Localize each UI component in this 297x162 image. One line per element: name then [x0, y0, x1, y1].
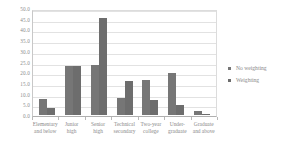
- bar: [202, 114, 210, 115]
- legend-label: No weighting: [236, 65, 267, 71]
- bar-group: [163, 11, 189, 115]
- bar: [176, 105, 184, 115]
- bar: [47, 108, 55, 115]
- y-axis-tick-label: 15.0: [8, 82, 30, 87]
- x-axis-label-line: Junior: [65, 121, 78, 127]
- x-axis-tick: [138, 117, 139, 120]
- bar: [39, 99, 47, 115]
- y-axis-tick-label: 0.0: [8, 114, 30, 119]
- bar-group: [137, 11, 163, 115]
- x-axis-label-line: high: [58, 128, 84, 135]
- x-axis-label-line: Under-: [170, 121, 185, 127]
- x-axis-label: Technicalsecondary: [111, 121, 137, 136]
- y-axis-tick-label: 50.0: [8, 7, 30, 12]
- y-axis-tick-label: 30.0: [8, 50, 30, 55]
- x-axis-tick: [85, 117, 86, 120]
- x-axis-tick: [111, 117, 112, 120]
- plot-area: [32, 10, 217, 117]
- x-axis-label-line: Graduate: [194, 121, 214, 127]
- x-axis-tick: [164, 117, 165, 120]
- legend-swatch-icon: [228, 67, 231, 70]
- x-axis-label-line: secondary: [111, 128, 137, 135]
- y-axis-tick-label: 5.0: [8, 104, 30, 109]
- x-axis-tick: [217, 117, 218, 120]
- bar: [117, 98, 125, 115]
- bar-group: [189, 11, 215, 115]
- x-axis-label: Juniorhigh: [58, 121, 84, 136]
- legend-swatch-icon: [228, 79, 231, 82]
- bar-group: [34, 11, 60, 115]
- x-axis-label-line: high: [85, 128, 111, 135]
- bar: [91, 65, 99, 115]
- x-axis-label-line: graduate: [164, 128, 190, 135]
- bar: [73, 66, 81, 115]
- x-axis-tick: [191, 117, 192, 120]
- y-axis-tick-label: 40.0: [8, 29, 30, 34]
- legend-item-no-weighting: No weighting: [228, 62, 294, 74]
- x-axis-label: Seniorhigh: [85, 121, 111, 136]
- bar: [168, 73, 176, 115]
- x-axis-label-line: and below: [32, 128, 58, 135]
- bar-groups: [34, 11, 215, 115]
- x-axis-tick: [32, 117, 33, 120]
- y-axis-tick-label: 45.0: [8, 18, 30, 23]
- x-axis-label: Under-graduate: [164, 121, 190, 136]
- bar: [65, 66, 73, 115]
- x-axis-tick: [58, 117, 59, 120]
- bar: [99, 18, 107, 115]
- x-axis-label: Graduateand above: [191, 121, 217, 136]
- x-axis-label-line: Two-year: [141, 121, 162, 127]
- legend-item-weighting: Weighting: [228, 74, 294, 86]
- bar: [125, 81, 133, 115]
- x-axis-label-line: Senior: [91, 121, 105, 127]
- bar: [142, 80, 150, 115]
- y-axis-tick-label: 10.0: [8, 93, 30, 98]
- y-axis-tick-label: 25.0: [8, 61, 30, 66]
- bar-group: [112, 11, 138, 115]
- legend-label: Weighting: [236, 77, 259, 83]
- y-axis: 0.05.010.015.020.025.030.035.040.045.050…: [8, 10, 30, 117]
- bar: [194, 111, 202, 115]
- bar-chart: 0.05.010.015.020.025.030.035.040.045.050…: [0, 0, 297, 162]
- bar-group: [60, 11, 86, 115]
- x-axis-label-line: Elementary: [33, 121, 58, 127]
- x-axis-labels: Elementaryand belowJuniorhighSeniorhighT…: [32, 121, 217, 136]
- chart-legend: No weighting Weighting: [228, 62, 294, 86]
- x-axis-label-line: Technical: [114, 121, 135, 127]
- x-axis-ticks: [32, 117, 217, 120]
- x-axis-label: Two-yearcollege: [138, 121, 164, 136]
- bar: [150, 100, 158, 115]
- bar-group: [86, 11, 112, 115]
- x-axis-label: Elementaryand below: [32, 121, 58, 136]
- y-axis-tick-label: 35.0: [8, 39, 30, 44]
- y-axis-tick-label: 20.0: [8, 72, 30, 77]
- x-axis-label-line: and above: [191, 128, 217, 135]
- x-axis-label-line: college: [138, 128, 164, 135]
